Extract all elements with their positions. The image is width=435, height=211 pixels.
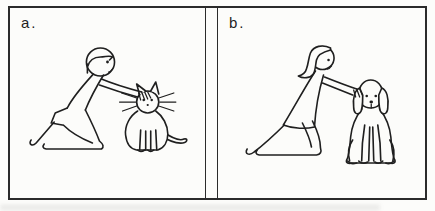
person-figure	[246, 46, 362, 155]
panel-b-label: b.	[229, 15, 246, 30]
dog-left-eye	[365, 95, 368, 98]
cat-figure	[120, 82, 187, 152]
person-dress	[283, 71, 323, 128]
person-arm	[99, 79, 141, 97]
person-eye	[106, 61, 109, 64]
person-petting-dog-drawing	[218, 8, 425, 198]
panel-a-label: a.	[21, 15, 38, 30]
panel-b: b.	[217, 8, 425, 198]
cat-nose	[147, 104, 149, 106]
dog-right-ear	[379, 88, 388, 114]
panel-a: a.	[10, 8, 206, 198]
person-arm	[323, 77, 357, 95]
dog-figure	[346, 80, 395, 164]
cat-right-eye	[151, 99, 153, 101]
dog-nose	[369, 101, 373, 104]
scan-artifact	[0, 205, 380, 210]
panel-divider-gap	[206, 8, 217, 198]
person-torso	[67, 74, 103, 110]
person-eye	[327, 59, 330, 62]
dog-body	[346, 109, 395, 163]
person-kneeling-leg	[43, 110, 103, 149]
person-far-leg	[246, 125, 284, 154]
cat-body	[125, 111, 167, 150]
two-panel-figure: a.	[8, 6, 427, 200]
person-bent-leg	[30, 108, 67, 145]
dog-right-eye	[374, 95, 377, 98]
person-petting-cat-drawing	[10, 8, 205, 198]
